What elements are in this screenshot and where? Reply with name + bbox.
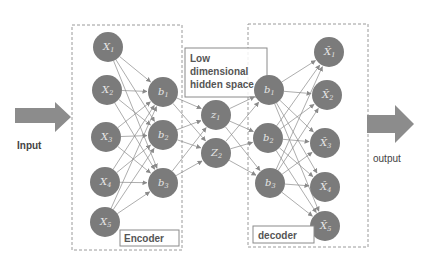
- node-z2: Z2: [201, 138, 231, 168]
- edge-eb1-z1: [177, 98, 202, 109]
- node-x2: X2: [92, 75, 122, 105]
- edge-db1-y2: [284, 91, 311, 93]
- node-y1: X̂1: [314, 37, 344, 67]
- edge-z2-db2: [230, 142, 252, 148]
- diagram-svg: Low dimensional hidden space X1X2X3X4X5b…: [0, 0, 426, 260]
- input-arrow-icon: [15, 102, 71, 132]
- node-db2: b2: [253, 123, 283, 153]
- node-y2: X̂2: [312, 80, 342, 110]
- node-eb2: b2: [148, 120, 178, 150]
- output-label: output: [373, 153, 401, 164]
- node-x5: X5: [90, 207, 120, 237]
- node-y4: X̂4: [310, 172, 340, 202]
- edge-z1-db1: [230, 97, 255, 109]
- edge-x1-eb1: [120, 57, 151, 82]
- node-x3: X3: [91, 122, 121, 152]
- edge-x5-eb3: [117, 192, 149, 214]
- edge-db3-y3: [282, 152, 312, 174]
- node-x1: X1: [93, 32, 123, 62]
- node-db1: b1: [254, 75, 284, 105]
- edge-x2-eb2: [119, 99, 151, 125]
- edge-z2-db3: [229, 160, 256, 175]
- edge-eb3-z2: [176, 161, 202, 176]
- edge-db3-y5: [282, 192, 313, 216]
- edge-x3-eb3: [118, 146, 151, 173]
- edge-db3-y4: [285, 184, 309, 186]
- node-x4: X4: [90, 167, 120, 197]
- edge-x3-eb1: [118, 102, 151, 128]
- autoencoder-diagram: Low dimensional hidden space X1X2X3X4X5b…: [0, 0, 426, 260]
- output-arrow-icon: [367, 105, 414, 143]
- node-eb1: b1: [148, 77, 178, 107]
- node-y3: X̂3: [310, 128, 340, 158]
- encoder-label: Encoder: [124, 233, 164, 244]
- node-eb3: b3: [148, 168, 178, 198]
- edge-x5-eb1: [111, 107, 156, 209]
- input-label: Input: [17, 140, 42, 151]
- edge-x4-eb2: [117, 145, 151, 173]
- decoder-label: decoder: [258, 230, 297, 241]
- node-db3: b3: [255, 168, 285, 198]
- node-z1: z1: [201, 100, 231, 130]
- edge-db1-y3: [280, 100, 314, 132]
- edge-db2-y2: [280, 104, 314, 129]
- edge-db2-y3: [283, 139, 309, 141]
- edge-eb2-z2: [177, 140, 201, 148]
